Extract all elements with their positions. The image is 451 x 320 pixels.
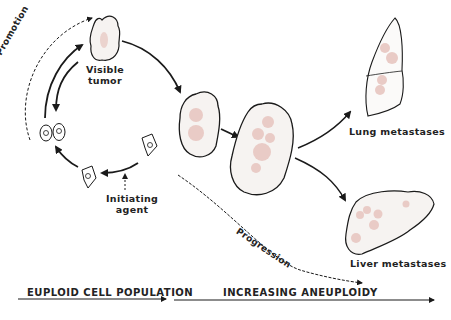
tumor-stage-2-icon xyxy=(231,103,294,195)
initiated-cell-icon xyxy=(82,166,96,188)
liver-metastases-label: Liver metastases xyxy=(350,258,446,269)
dividing-cells-icon xyxy=(40,124,65,142)
normal-cell-icon xyxy=(142,134,157,156)
tumor-progress-arrow xyxy=(122,41,180,92)
lung-icon xyxy=(366,18,403,116)
promotion-arrow xyxy=(25,18,92,140)
visible-tumor-icon xyxy=(90,16,120,60)
lung-arrow xyxy=(298,112,350,148)
visible-tumor-label-line1: Visible xyxy=(86,64,124,75)
visible-tumor-label: Visible tumor xyxy=(86,64,124,86)
initiating-agent-label-line1: Initiating xyxy=(106,193,158,204)
stage-arrow xyxy=(221,129,238,137)
diagram-canvas: Visible tumor Promotion Initiating agent… xyxy=(0,0,451,320)
liver-icon xyxy=(346,191,434,254)
lung-metastases-label: Lung metastases xyxy=(349,126,445,137)
initiating-agent-label-line2: agent xyxy=(106,204,158,215)
initiation-arrow xyxy=(102,163,138,173)
division-arrow xyxy=(56,147,78,167)
euploid-axis-label: EUPLOID CELL POPULATION xyxy=(27,287,193,298)
growth-arrow xyxy=(45,45,82,118)
tumor-stage-1-icon xyxy=(179,92,219,157)
initiating-agent-label: Initiating agent xyxy=(106,193,158,215)
aneuploidy-axis-label: INCREASING ANEUPLOIDY xyxy=(223,287,378,298)
diagram-graphics xyxy=(0,0,451,320)
visible-tumor-label-line2: tumor xyxy=(86,75,124,86)
liver-arrow xyxy=(295,158,345,200)
